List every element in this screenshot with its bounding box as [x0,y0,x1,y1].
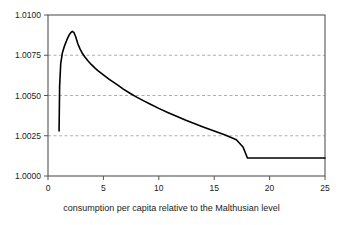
ytick-label-1.0025: 1.0025 [0,132,41,141]
chart-plot-area [0,0,343,225]
ytick-label-1.0000: 1.0000 [0,172,41,181]
xtick-label-5: 5 [101,184,106,193]
data-series-line [59,31,325,158]
gridlines [48,55,325,136]
ytick-label-1.0050: 1.0050 [0,91,41,100]
x-axis-title: consumption per capita relative to the M… [0,203,343,213]
ytick-label-1.0075: 1.0075 [0,51,41,60]
ytick-label-1.0100: 1.0100 [0,11,41,20]
x-axis-ticks [48,176,325,180]
xtick-label-20: 20 [265,184,274,193]
xtick-label-10: 10 [154,184,163,193]
chart-figure: 1.0100 1.0075 1.0050 1.0025 1.0000 0 5 1… [0,0,343,225]
xtick-label-25: 25 [320,184,329,193]
y-axis-ticks [44,15,48,176]
xtick-label-0: 0 [46,184,51,193]
xtick-label-15: 15 [209,184,218,193]
